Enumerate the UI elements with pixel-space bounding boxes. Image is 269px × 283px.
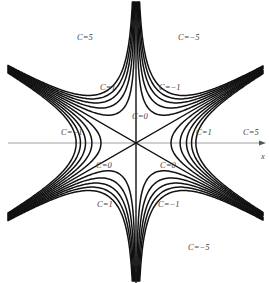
contour-plot [0, 0, 269, 283]
label-upper-c0: C=0 [132, 112, 148, 121]
label-upper-left-c1: C=1 [100, 83, 116, 92]
label-lower-left-c1: C=1 [97, 200, 113, 209]
label-lower-right-c0: C=0 [160, 161, 176, 170]
label-x-axis-label: x [261, 152, 265, 161]
label-left-cm1: C=−1 [61, 128, 82, 137]
label-right-c5: C=5 [243, 128, 259, 137]
x-axis-arrow-icon [259, 141, 266, 146]
label-right-c1: C=1 [196, 128, 212, 137]
label-top-right-cm5: C=−5 [178, 33, 199, 42]
label-lower-right-cm1: C=−1 [158, 200, 179, 209]
label-upper-right-cm1: C=−1 [159, 83, 180, 92]
contour-curves [8, 2, 263, 283]
label-top-left-c5: C=5 [77, 33, 93, 42]
label-lower-left-c0: C=0 [96, 161, 112, 170]
label-bottom-right-cm5: C=−5 [188, 243, 209, 252]
